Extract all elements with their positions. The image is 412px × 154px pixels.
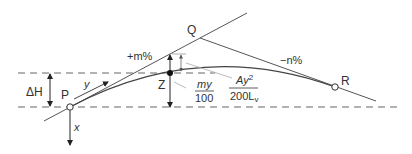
label-delta-h: ΔH <box>26 85 43 99</box>
point-r-marker <box>332 84 338 90</box>
label-entry-grade: +m% <box>127 50 153 62</box>
label-ay2-numerator: Ay2 <box>235 73 254 86</box>
label-y: y <box>83 78 91 90</box>
label-x: x <box>73 121 80 133</box>
subscript-text: v <box>254 95 258 104</box>
label-p: P <box>61 88 69 102</box>
denominator-text: 200L <box>230 90 254 102</box>
leader-my <box>174 82 186 88</box>
label-ay2-denominator: 200Lv <box>230 90 258 104</box>
point-z-marker <box>167 70 173 76</box>
exit-grade-tangent <box>200 38 376 101</box>
point-p-marker <box>67 104 73 110</box>
exponent-text: 2 <box>249 73 254 82</box>
vertical-curve-diagram: P Q R Z +m% −n% ΔH x y my 100 Ay2 200Lv <box>0 0 412 154</box>
label-my-numerator: my <box>197 78 213 90</box>
label-z: Z <box>158 78 165 92</box>
label-q: Q <box>187 23 196 37</box>
leader-ay2 <box>186 63 232 78</box>
label-my-denominator: 100 <box>195 92 213 104</box>
label-r: R <box>341 74 350 88</box>
label-exit-grade: −n% <box>280 54 303 66</box>
